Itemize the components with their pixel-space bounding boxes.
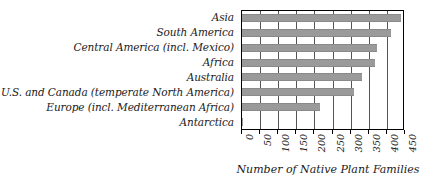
bar (242, 103, 320, 111)
tick-label-300: 300 (354, 134, 364, 152)
bar (242, 29, 391, 37)
bars-layer (242, 11, 403, 129)
tick-mark-450 (404, 130, 405, 134)
tick-label-150: 150 (299, 134, 309, 152)
bar-row (242, 100, 403, 115)
category-label-africa: Africa (0, 55, 238, 70)
bar (242, 14, 401, 22)
category-label-australia: Australia (0, 70, 238, 85)
tick-label-250: 250 (336, 134, 346, 152)
bar-row (242, 26, 403, 41)
plot-area (241, 10, 404, 130)
bar-row (242, 41, 403, 56)
bar-row (242, 55, 403, 70)
bar-chart-figure: Asia South America Central America (incl… (0, 0, 433, 184)
x-axis-title: Number of Native Plant Families (230, 163, 426, 176)
tick-label-50: 50 (263, 134, 273, 146)
x-axis-tick-labels: 050100150200250300350400450 (241, 134, 404, 158)
category-label-us-and-canada: U.S. and Canada (temperate North America… (0, 85, 238, 100)
tick-label-450: 450 (408, 134, 418, 152)
tick-label-350: 350 (372, 134, 382, 152)
category-label-central-america: Central America (incl. Mexico) (0, 40, 238, 55)
bar-row (242, 70, 403, 85)
bar (242, 44, 377, 52)
category-label-antarctica: Antarctica (0, 115, 238, 130)
category-axis: Asia South America Central America (incl… (0, 10, 238, 130)
bar-row (242, 114, 403, 129)
tick-label-400: 400 (390, 134, 400, 152)
bar (242, 59, 375, 67)
category-label-south-america: South America (0, 25, 238, 40)
tick-label-100: 100 (281, 134, 291, 152)
bar-row (242, 11, 403, 26)
category-label-asia: Asia (0, 10, 238, 25)
bar (242, 88, 354, 96)
bar (242, 118, 243, 126)
bar (242, 73, 362, 81)
tick-label-0: 0 (245, 134, 255, 140)
bar-row (242, 85, 403, 100)
tick-label-200: 200 (317, 134, 327, 152)
category-label-europe: Europe (incl. Mediterranean Africa) (0, 100, 238, 115)
